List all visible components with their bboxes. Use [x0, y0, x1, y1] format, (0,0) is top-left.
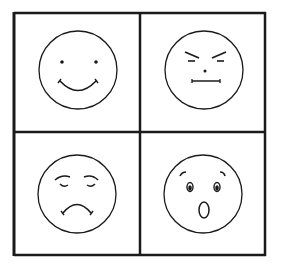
angry-face-icon	[165, 31, 243, 109]
grid-frame	[14, 12, 266, 256]
happy-face-icon	[39, 31, 117, 109]
emotion-faces-figure	[0, 0, 282, 267]
surprised-face-icon	[164, 155, 242, 233]
sad-face-icon	[38, 155, 116, 233]
